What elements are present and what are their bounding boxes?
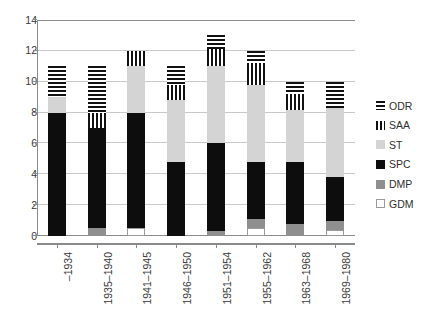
legend-swatch-dmp-icon bbox=[376, 180, 385, 189]
bar-segment-gdm[interactable] bbox=[247, 228, 265, 236]
bar-segment-spc[interactable] bbox=[127, 113, 145, 229]
bar-segment-gdm[interactable] bbox=[326, 230, 344, 236]
x-tick-label-6: 1963–1968 bbox=[300, 252, 312, 305]
bar-segment-st[interactable] bbox=[48, 97, 66, 112]
bar-segment-saa[interactable] bbox=[247, 63, 265, 85]
bar-segment-saa[interactable] bbox=[127, 51, 145, 66]
bar-stack bbox=[247, 20, 265, 236]
bar-segment-dmp[interactable] bbox=[326, 221, 344, 230]
bar-segment-saa[interactable] bbox=[207, 49, 225, 66]
bar-segment-odr[interactable] bbox=[48, 66, 66, 97]
bar-stack bbox=[48, 20, 66, 236]
bar-group[interactable] bbox=[247, 20, 265, 236]
x-axis-line bbox=[37, 243, 355, 245]
bar-group[interactable] bbox=[88, 20, 106, 236]
x-tick-label-2: 1941–1945 bbox=[141, 252, 153, 305]
legend-item-dmp[interactable]: DMP bbox=[376, 174, 437, 194]
x-tick-mark-0 bbox=[57, 243, 58, 248]
bar-group[interactable] bbox=[167, 20, 185, 236]
x-tick-label-0: –1934 bbox=[62, 252, 74, 281]
legend-swatch-spc-icon bbox=[376, 160, 385, 169]
legend-item-saa[interactable]: SAA bbox=[376, 116, 437, 136]
bar-segment-odr[interactable] bbox=[207, 35, 225, 49]
x-tick-mark-3 bbox=[176, 243, 177, 248]
x-tick-mark-6 bbox=[295, 243, 296, 248]
bar-segment-spc[interactable] bbox=[286, 162, 304, 224]
x-tick-mark-1 bbox=[97, 243, 98, 248]
legend-label: SPC bbox=[389, 159, 411, 170]
bar-segment-st[interactable] bbox=[286, 110, 304, 162]
bar-segment-odr[interactable] bbox=[167, 66, 185, 85]
bar-segment-spc[interactable] bbox=[326, 177, 344, 220]
bar-group[interactable] bbox=[127, 20, 145, 236]
bar-segment-spc[interactable] bbox=[207, 143, 225, 231]
legend-swatch-odr-icon bbox=[376, 101, 385, 110]
bar-segment-odr[interactable] bbox=[247, 51, 265, 63]
stacked-bar-chart: 02468101214 –19341935–19401941–19451946–… bbox=[0, 0, 437, 326]
bar-segment-dmp[interactable] bbox=[247, 219, 265, 228]
x-tick-mark-4 bbox=[216, 243, 217, 248]
legend-item-st[interactable]: ST bbox=[376, 135, 437, 155]
legend-item-gdm[interactable]: GDM bbox=[376, 194, 437, 214]
bar-segment-st[interactable] bbox=[247, 85, 265, 162]
bar-stack bbox=[207, 20, 225, 236]
legend-swatch-saa-icon bbox=[376, 121, 385, 130]
bar-segment-st[interactable] bbox=[127, 66, 145, 112]
legend-label: SAA bbox=[389, 120, 410, 131]
bar-group[interactable] bbox=[48, 20, 66, 236]
bar-group[interactable] bbox=[286, 20, 304, 236]
legend-label: ODR bbox=[389, 101, 412, 112]
legend-label: DMP bbox=[389, 179, 412, 190]
bar-segment-dmp[interactable] bbox=[88, 228, 106, 236]
bar-segment-odr[interactable] bbox=[326, 82, 344, 108]
bar-group[interactable] bbox=[326, 20, 344, 236]
bar-segment-gdm[interactable] bbox=[127, 228, 145, 236]
x-tick-label-4: 1951–1954 bbox=[221, 252, 233, 305]
legend-swatch-st-icon bbox=[376, 140, 385, 149]
x-tick-label-5: 1955–1962 bbox=[261, 252, 273, 305]
bar-group[interactable] bbox=[207, 20, 225, 236]
x-tick-label-3: 1946–1950 bbox=[181, 252, 193, 305]
legend-item-odr[interactable]: ODR bbox=[376, 96, 437, 116]
x-tick-label-7: 1969–1980 bbox=[340, 252, 352, 305]
x-tick-mark-5 bbox=[256, 243, 257, 248]
bar-segment-dmp[interactable] bbox=[286, 224, 304, 236]
bar-segment-saa[interactable] bbox=[88, 113, 106, 128]
bar-stack bbox=[88, 20, 106, 236]
bar-segment-spc[interactable] bbox=[167, 162, 185, 236]
bar-segment-odr[interactable] bbox=[286, 82, 304, 94]
bar-segment-dmp[interactable] bbox=[207, 231, 225, 236]
bar-segment-spc[interactable] bbox=[48, 113, 66, 236]
bar-stack bbox=[167, 20, 185, 236]
legend-label: GDM bbox=[389, 199, 414, 210]
bars-layer bbox=[37, 20, 355, 236]
legend-item-spc[interactable]: SPC bbox=[376, 155, 437, 175]
bar-segment-st[interactable] bbox=[207, 66, 225, 143]
bar-stack bbox=[286, 20, 304, 236]
bar-segment-saa[interactable] bbox=[167, 85, 185, 100]
x-tick-mark-7 bbox=[335, 243, 336, 248]
x-tick-label-1: 1935–1940 bbox=[102, 252, 114, 305]
bar-segment-st[interactable] bbox=[326, 108, 344, 177]
bar-segment-spc[interactable] bbox=[88, 128, 106, 228]
y-axis: 02468101214 bbox=[0, 20, 37, 236]
legend-label: ST bbox=[389, 140, 402, 151]
bar-stack bbox=[127, 20, 145, 236]
bar-stack bbox=[326, 20, 344, 236]
chart-legend: ODRSAASTSPCDMPGDM bbox=[376, 96, 437, 214]
bar-segment-st[interactable] bbox=[167, 100, 185, 162]
x-tick-mark-2 bbox=[136, 243, 137, 248]
bar-segment-odr[interactable] bbox=[88, 66, 106, 112]
bar-segment-saa[interactable] bbox=[286, 94, 304, 109]
legend-swatch-gdm-icon bbox=[376, 199, 385, 208]
bar-segment-spc[interactable] bbox=[247, 162, 265, 219]
